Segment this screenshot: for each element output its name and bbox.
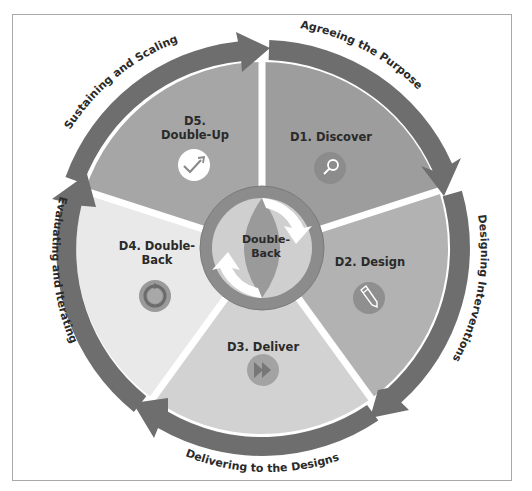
pencil-icon — [353, 282, 385, 314]
stage-label-d5-line2: Double-Up — [161, 128, 229, 142]
center-label-line2: Back — [251, 247, 281, 260]
stage-label-d1: D1. Discover — [290, 130, 372, 144]
refresh-icon — [139, 280, 171, 312]
stage-label-d5-line1: D5. — [184, 114, 206, 128]
stage-label-d2: D2. Design — [335, 255, 405, 269]
center-double-back[interactable]: Double- Back — [200, 186, 324, 310]
fast-forward-icon — [247, 354, 279, 386]
stage-label-d4-line2: Back — [142, 253, 173, 267]
magnifier-icon — [314, 152, 346, 184]
double-diamond-cycle-diagram: Agreeing the Purpose Designing Intervent… — [0, 0, 532, 491]
center-label-line1: Double- — [242, 233, 290, 246]
stage-label-d4-line1: D4. Double- — [119, 239, 196, 253]
stage-label-d3: D3. Deliver — [227, 340, 299, 354]
check-arrow-icon — [178, 149, 210, 181]
